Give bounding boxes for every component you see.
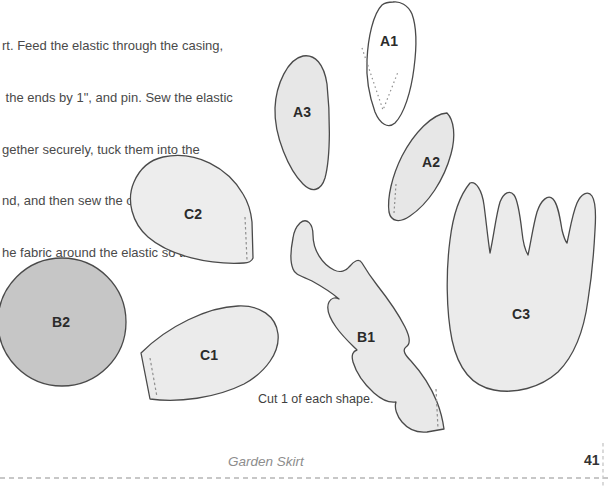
pattern-sheet: A1 A3 A2 C2 B2 C1 B1 C3 (0, 0, 608, 486)
pattern-piece-a1 (367, 2, 416, 126)
piece-label-b1: B1 (357, 329, 375, 345)
piece-label-a3: A3 (293, 104, 311, 120)
pattern-piece-c3 (447, 183, 595, 391)
book-page: rt. Feed the elastic through the casing,… (0, 0, 608, 486)
piece-label-c3: C3 (512, 306, 530, 322)
piece-label-b2: B2 (52, 314, 70, 330)
footer-chapter-title: Garden Skirt (228, 454, 304, 469)
cut-instruction-note: Cut 1 of each shape. (258, 392, 373, 406)
piece-label-c2: C2 (184, 206, 202, 222)
pattern-piece-a3 (275, 56, 329, 190)
piece-label-c1: C1 (200, 347, 218, 363)
page-number: 41 (584, 452, 600, 468)
piece-label-a1: A1 (380, 33, 398, 49)
piece-label-a2: A2 (422, 154, 440, 170)
